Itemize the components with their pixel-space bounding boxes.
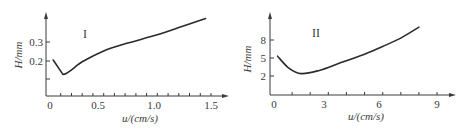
data-line-series-I [53, 19, 205, 75]
x-axis-label: u/(cm/s) [348, 110, 384, 123]
x-tick-label: 1.0 [147, 99, 161, 111]
y-tick-label: 2 [261, 70, 267, 82]
chart-figure: 0.3 0.2 0 0.5 1.0 1.5 u/(cm/s) H/mm I 8 … [0, 0, 470, 134]
x-axis-arrow-icon [222, 94, 229, 98]
y-tick-label: 5 [261, 52, 267, 64]
x-axis-arrow-icon [449, 93, 456, 97]
x-axis-label: u/(cm/s) [122, 112, 158, 125]
panel-2: 8 5 2 0 3 6 9 u/(cm/s) H/mm II [241, 12, 456, 123]
y-ticks [46, 42, 50, 79]
panel-1: 0.3 0.2 0 0.5 1.0 1.5 u/(cm/s) H/mm I [12, 12, 229, 125]
y-tick-label: 0.2 [29, 55, 43, 67]
x-tick-label: 3 [321, 98, 327, 110]
x-tick-label: 1.5 [204, 99, 218, 111]
x-tick-label: 6 [376, 98, 382, 110]
y-axis-arrow-icon [268, 12, 272, 19]
y-axis-label: H/mm [241, 46, 253, 74]
x-tick-label: 0.5 [91, 99, 105, 111]
data-line-series-II [278, 27, 419, 74]
panel-label: II [312, 26, 320, 40]
x-tick-label: 0 [47, 99, 53, 111]
panel-label: I [83, 27, 87, 41]
y-ticks [270, 40, 274, 76]
y-axis-label: H/mm [12, 42, 24, 70]
y-axis-arrow-icon [44, 12, 48, 19]
y-tick-label: 0.3 [29, 36, 43, 48]
x-tick-label: 9 [434, 98, 440, 110]
y-tick-label: 8 [261, 34, 267, 46]
x-tick-label: 0 [271, 98, 277, 110]
